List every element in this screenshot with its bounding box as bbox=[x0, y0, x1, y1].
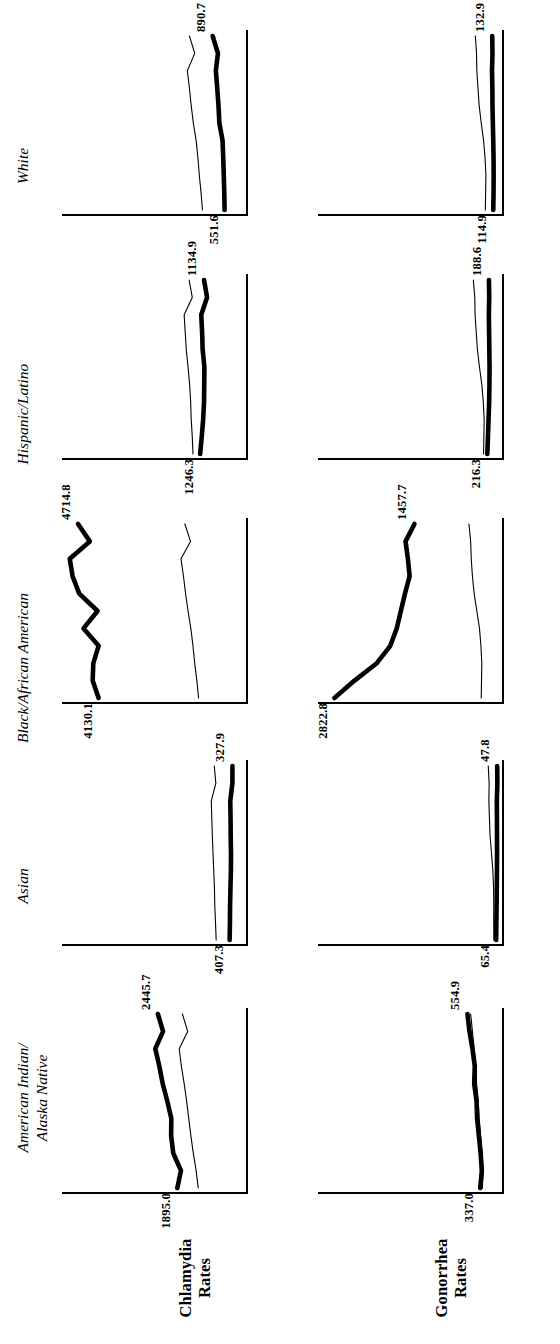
figure-frame: Chlamydia Rates Gonorrhea Rates American… bbox=[0, 0, 560, 1344]
group-rate-line bbox=[70, 524, 99, 698]
reference-rate-line bbox=[473, 280, 484, 454]
column-title-asian-line1: Asian bbox=[14, 868, 31, 903]
group-rate-line bbox=[230, 766, 233, 940]
start-value-label: 337.0 bbox=[462, 1193, 477, 1222]
end-value-label: 188.6 bbox=[469, 247, 484, 276]
row-label-gonorrhea: Gonorrhea Rates bbox=[432, 1226, 471, 1330]
start-value-label: 65.4 bbox=[478, 945, 493, 968]
end-value-label: 1457.7 bbox=[395, 484, 410, 520]
plot-lines bbox=[62, 274, 248, 460]
end-value-label: 2445.7 bbox=[138, 974, 153, 1010]
column-title-aian: American Indian/ Alaska Native bbox=[14, 986, 51, 1210]
end-value-label: 1134.9 bbox=[185, 241, 200, 276]
reference-rate-line bbox=[469, 524, 482, 698]
row-label-gonorrhea-line1: Gonorrhea bbox=[432, 1239, 451, 1318]
column-title-black: Black/African American bbox=[14, 548, 33, 788]
column-title-asian: Asian bbox=[14, 796, 33, 976]
row-label-chlamydia: Chlamydia Rates bbox=[176, 1226, 215, 1330]
plot-panel: 114.9132.9 bbox=[318, 30, 504, 216]
group-rate-line bbox=[467, 1014, 481, 1188]
start-value-label: 1246.3 bbox=[182, 459, 197, 495]
plot-lines bbox=[318, 274, 504, 460]
reference-rate-line bbox=[181, 524, 199, 698]
end-value-label: 132.9 bbox=[473, 3, 488, 32]
end-value-label: 890.7 bbox=[193, 3, 208, 32]
column-title-white: White bbox=[14, 56, 33, 276]
start-value-label: 4130.1 bbox=[80, 703, 95, 739]
start-value-label: 551.6 bbox=[206, 215, 221, 244]
plot-panel: 216.3188.6 bbox=[318, 274, 504, 460]
column-title-white-line1: White bbox=[14, 148, 31, 184]
plot-panel: 337.0554.9 bbox=[318, 1008, 504, 1194]
group-rate-line bbox=[487, 280, 489, 454]
reference-rate-line bbox=[184, 280, 193, 454]
plot-lines bbox=[318, 518, 504, 704]
reference-rate-line bbox=[488, 766, 494, 940]
std-rates-figure: Chlamydia Rates Gonorrhea Rates American… bbox=[0, 0, 560, 1344]
start-value-label: 2822.8 bbox=[316, 703, 331, 739]
start-value-label: 1895.0 bbox=[159, 1193, 174, 1229]
group-rate-line bbox=[200, 280, 207, 454]
reference-rate-line bbox=[179, 1014, 198, 1188]
group-rate-line bbox=[334, 524, 414, 698]
column-title-aian-line2: Alaska Native bbox=[33, 986, 52, 1210]
group-rate-line bbox=[155, 1014, 181, 1188]
row-label-chlamydia-line2: Rates bbox=[195, 1226, 214, 1330]
plot-lines bbox=[62, 760, 248, 946]
plot-panel: 4130.14714.8 bbox=[62, 518, 248, 704]
plot-lines bbox=[318, 1008, 504, 1194]
column-title-black-line1: Black/African American bbox=[14, 593, 31, 743]
rotation-wrapper: Chlamydia Rates Gonorrhea Rates American… bbox=[0, 0, 560, 1344]
plot-lines bbox=[62, 30, 248, 216]
end-value-label: 327.9 bbox=[213, 733, 228, 762]
end-value-label: 4714.8 bbox=[59, 484, 74, 520]
column-title-aian-line1: American Indian/ bbox=[14, 1044, 31, 1153]
plot-panel: 1895.02445.7 bbox=[62, 1008, 248, 1194]
plot-panel: 2822.81457.7 bbox=[318, 518, 504, 704]
plot-panel: 65.447.8 bbox=[318, 760, 504, 946]
column-title-hispanic: Hispanic/Latino bbox=[14, 304, 33, 524]
end-value-label: 554.9 bbox=[448, 981, 463, 1010]
row-label-chlamydia-line1: Chlamydia bbox=[176, 1239, 195, 1318]
column-title-hispanic-line1: Hispanic/Latino bbox=[14, 364, 31, 465]
plot-panel: 407.3327.9 bbox=[62, 760, 248, 946]
reference-rate-line bbox=[187, 36, 202, 210]
group-rate-line bbox=[492, 36, 494, 210]
plot-lines bbox=[62, 1008, 248, 1194]
reference-rate-line bbox=[475, 36, 486, 210]
plot-panel: 1246.31134.9 bbox=[62, 274, 248, 460]
start-value-label: 216.3 bbox=[469, 459, 484, 488]
row-label-gonorrhea-line2: Rates bbox=[451, 1226, 470, 1330]
plot-lines bbox=[62, 518, 248, 704]
start-value-label: 407.3 bbox=[211, 945, 226, 974]
plot-panel: 551.6890.7 bbox=[62, 30, 248, 216]
end-value-label: 47.8 bbox=[478, 739, 493, 762]
start-value-label: 114.9 bbox=[475, 215, 490, 244]
group-rate-line bbox=[213, 36, 225, 210]
plot-lines bbox=[318, 30, 504, 216]
plot-lines bbox=[318, 760, 504, 946]
reference-rate-line bbox=[211, 766, 216, 940]
group-rate-line bbox=[496, 766, 497, 940]
